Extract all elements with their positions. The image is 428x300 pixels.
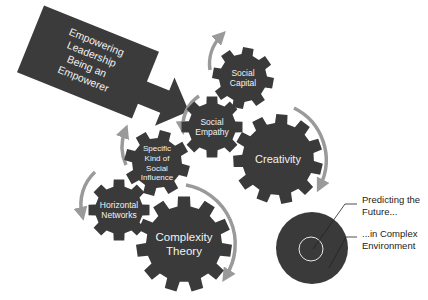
gear-icon	[136, 196, 232, 291]
gear-label-line: Influence	[141, 173, 174, 182]
gear-social-empathy: SocialEmpathy	[182, 97, 243, 158]
gear-label: Creativity	[255, 153, 301, 165]
target-circle	[276, 204, 357, 284]
gear-label-line: Creativity	[255, 153, 301, 165]
gear-label-line: Kind of	[145, 154, 171, 163]
gear-label-line: Specific	[143, 144, 171, 153]
outer-circle	[276, 212, 348, 284]
arrow-to-social-capital-icon	[210, 36, 221, 70]
label-predicting-future: Predicting the Future...	[362, 194, 420, 218]
gear-label-line: Theory	[166, 245, 202, 257]
gear-specific-kind-of-social-influence: SpecificKind ofSocialInfluence	[124, 130, 190, 196]
label-line: Environment	[362, 240, 417, 252]
gear-label-line: Social	[146, 164, 168, 173]
empowering-leadership-banner: Empowering Leadership Being an Empowerer	[17, 5, 205, 137]
label-line: Future...	[362, 206, 420, 218]
gear-label-line: Social	[200, 117, 223, 127]
diagram: Empowering Leadership Being an Empowerer…	[0, 0, 428, 300]
gear-complexity-theory: ComplexityTheory	[136, 196, 232, 291]
label-complex-environment: ...in Complex Environment	[362, 228, 417, 252]
gear-label: HorizontalNetworks	[100, 200, 138, 220]
gear-label-line: Empathy	[195, 127, 229, 137]
gear-horizontal-networks: HorizontalNetworks	[89, 180, 150, 241]
gear-label-line: Complexity	[156, 231, 213, 243]
gear-label-line: Horizontal	[100, 200, 138, 210]
label-line: Predicting the	[362, 194, 420, 206]
label-line: ...in Complex	[362, 228, 417, 240]
gear-social-capital: SocialCapital	[212, 47, 274, 109]
gear-creativity: Creativity	[233, 114, 323, 204]
gear-label: SocialCapital	[230, 68, 257, 88]
gear-label-line: Networks	[101, 210, 136, 220]
gear-label-line: Social	[231, 68, 254, 78]
gear-label-line: Capital	[230, 78, 257, 88]
